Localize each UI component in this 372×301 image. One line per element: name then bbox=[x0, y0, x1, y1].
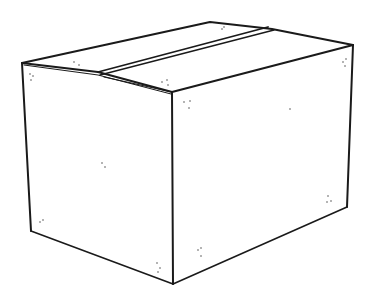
center-vertical-edge bbox=[172, 92, 173, 284]
box-faces bbox=[22, 22, 353, 284]
front-face bbox=[22, 63, 173, 284]
box-illustration bbox=[0, 0, 372, 301]
